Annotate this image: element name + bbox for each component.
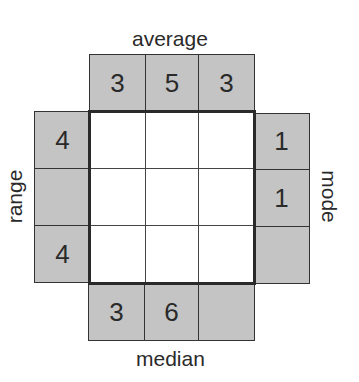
clue-left-2: [34, 168, 91, 226]
label-mode: mode: [319, 170, 340, 223]
label-median: median: [136, 348, 205, 369]
clue-right-2: 1: [253, 169, 310, 227]
grid-cell-r3c2[interactable]: [145, 225, 199, 284]
clue-bottom-3: [198, 283, 255, 341]
clue-right-3: [253, 226, 310, 284]
label-range: range: [4, 170, 25, 224]
clue-top-3: 3: [198, 54, 255, 112]
grid-cell-r2c2[interactable]: [145, 168, 199, 226]
clue-right-1: 1: [253, 113, 310, 170]
label-average: average: [132, 28, 208, 49]
grid-cell-r3c3[interactable]: [198, 225, 255, 284]
clue-left-3: 4: [34, 225, 91, 283]
grid-cell-r2c3[interactable]: [198, 168, 255, 226]
clue-top-1: 3: [89, 54, 146, 112]
grid-cell-r2c1[interactable]: [89, 168, 146, 226]
clue-left-1: 4: [34, 111, 91, 169]
grid-cell-r1c1[interactable]: [89, 111, 146, 169]
clue-bottom-1: 3: [88, 283, 145, 341]
clue-top-2: 5: [145, 54, 199, 112]
grid-cell-r3c1[interactable]: [89, 225, 146, 284]
clue-bottom-2: 6: [144, 283, 199, 341]
grid-cell-r1c2[interactable]: [145, 111, 199, 169]
grid-cell-r1c3[interactable]: [198, 111, 255, 169]
